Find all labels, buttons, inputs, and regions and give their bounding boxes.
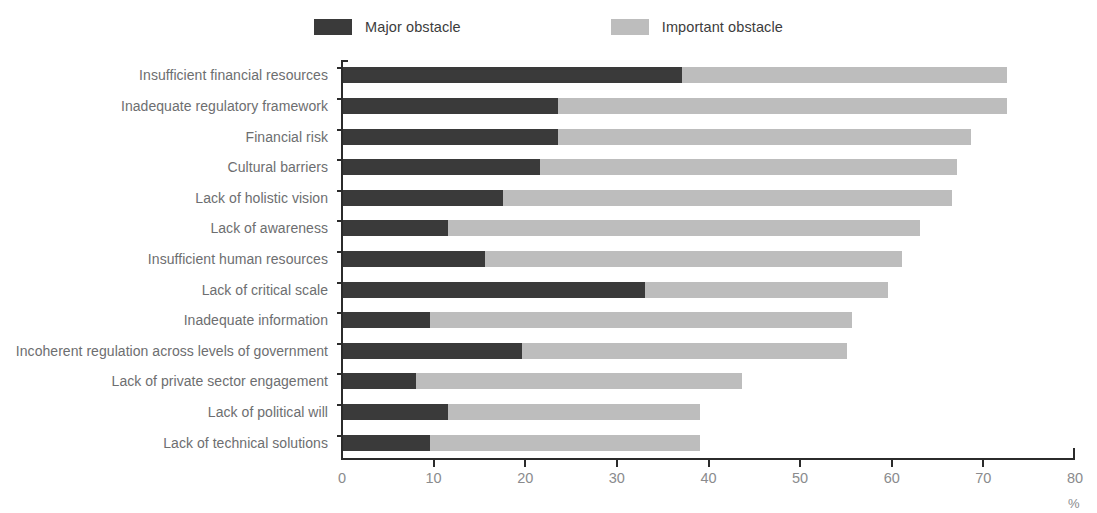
x-axis-tick [891, 458, 893, 467]
category-label-cell: Lack of technical solutions [0, 427, 334, 458]
x-axis-tick [524, 458, 526, 467]
category-label: Insufficient human resources [148, 251, 328, 267]
stacked-bar [343, 373, 742, 389]
category-label: Lack of holistic vision [195, 190, 328, 206]
bar-segment-major-obstacle [343, 220, 448, 236]
bar-segment-important-obstacle [448, 220, 920, 236]
stacked-bar-chart: Insufficient financial resourcesInadequa… [0, 52, 1097, 513]
category-label-cell: Lack of holistic vision [0, 182, 334, 213]
bar-segment-important-obstacle [430, 312, 851, 328]
bar-segment-important-obstacle [416, 373, 741, 389]
chart-row: Lack of critical scale [342, 274, 1075, 305]
bar-segment-important-obstacle [645, 282, 888, 298]
chart-row: Cultural barriers [342, 152, 1075, 183]
x-axis-tick-label: 40 [700, 470, 716, 486]
stacked-bar [343, 404, 700, 420]
chart-legend: Major obstacle Important obstacle [0, 14, 1097, 40]
category-label: Insufficient financial resources [139, 67, 328, 83]
x-axis-tick-label: 50 [792, 470, 808, 486]
stacked-bar [343, 67, 1007, 83]
chart-row: Financial risk [342, 121, 1075, 152]
x-axis-tick-label: 80 [1067, 470, 1083, 486]
x-axis-tick-label: 10 [426, 470, 442, 486]
category-label: Inadequate information [184, 312, 328, 328]
stacked-bar [343, 129, 971, 145]
bar-segment-important-obstacle [503, 190, 952, 206]
category-label-cell: Cultural barriers [0, 152, 334, 183]
stacked-bar [343, 435, 700, 451]
x-axis-tick-label: 70 [975, 470, 991, 486]
chart-row: Inadequate information [342, 305, 1075, 336]
bar-segment-major-obstacle [343, 129, 558, 145]
chart-row: Lack of awareness [342, 213, 1075, 244]
stacked-bar [343, 220, 920, 236]
category-label: Lack of critical scale [202, 282, 328, 298]
category-label-cell: Lack of private sector engagement [0, 366, 334, 397]
stacked-bar [343, 343, 847, 359]
x-axis-tick [982, 458, 984, 467]
x-axis-tick [616, 458, 618, 467]
bar-segment-major-obstacle [343, 251, 485, 267]
x-axis-tick-label: 60 [884, 470, 900, 486]
chart-row: Lack of technical solutions [342, 427, 1075, 458]
bar-segment-major-obstacle [343, 159, 540, 175]
bar-segment-important-obstacle [682, 67, 1007, 83]
x-axis-tick [433, 458, 435, 467]
bar-segment-important-obstacle [485, 251, 902, 267]
category-label: Inadequate regulatory framework [121, 98, 328, 114]
bar-segment-major-obstacle [343, 190, 503, 206]
category-label: Lack of political will [208, 404, 328, 420]
stacked-bar [343, 312, 852, 328]
legend-entry-major: Major obstacle [314, 19, 461, 35]
bar-segment-important-obstacle [522, 343, 847, 359]
category-label-cell: Insufficient human resources [0, 244, 334, 275]
x-axis-tick-label: 30 [609, 470, 625, 486]
legend-swatch-important-obstacle [611, 19, 649, 35]
category-label: Financial risk [246, 129, 328, 145]
bar-segment-important-obstacle [430, 435, 700, 451]
category-label-cell: Inadequate information [0, 305, 334, 336]
x-axis-tick-label: 20 [517, 470, 533, 486]
chart-row: Insufficient human resources [342, 244, 1075, 275]
bar-segment-major-obstacle [343, 67, 682, 83]
category-label-cell: Lack of critical scale [0, 274, 334, 305]
category-label: Lack of awareness [210, 220, 328, 236]
category-label-cell: Incoherent regulation across levels of g… [0, 336, 334, 367]
bar-segment-major-obstacle [343, 373, 416, 389]
bar-segment-important-obstacle [558, 129, 970, 145]
bar-segment-major-obstacle [343, 435, 430, 451]
chart-row: Insufficient financial resources [342, 60, 1075, 91]
legend-label-major-obstacle: Major obstacle [365, 19, 461, 35]
category-label-cell: Inadequate regulatory framework [0, 91, 334, 122]
chart-row: Incoherent regulation across levels of g… [342, 336, 1075, 367]
axis-unit-label: % [1068, 496, 1080, 511]
chart-row: Lack of political will [342, 397, 1075, 428]
chart-row: Lack of holistic vision [342, 182, 1075, 213]
bar-segment-major-obstacle [343, 343, 522, 359]
bar-segment-major-obstacle [343, 98, 558, 114]
category-label: Incoherent regulation across levels of g… [16, 343, 328, 359]
legend-swatch-major-obstacle [314, 19, 352, 35]
x-axis-tick-label: 0 [338, 470, 346, 486]
stacked-bar [343, 98, 1007, 114]
x-axis-tick [708, 458, 710, 467]
bar-segment-important-obstacle [540, 159, 957, 175]
stacked-bar [343, 251, 902, 267]
stacked-bar [343, 159, 957, 175]
plot-area: Insufficient financial resourcesInadequa… [342, 60, 1075, 458]
category-label-cell: Financial risk [0, 121, 334, 152]
stacked-bar [343, 282, 888, 298]
bar-segment-major-obstacle [343, 282, 645, 298]
chart-row: Lack of private sector engagement [342, 366, 1075, 397]
x-axis-tick [799, 458, 801, 467]
category-label-cell: Lack of political will [0, 397, 334, 428]
stacked-bar [343, 190, 952, 206]
category-label: Cultural barriers [228, 159, 328, 175]
legend-entry-important: Important obstacle [611, 19, 783, 35]
bar-segment-important-obstacle [448, 404, 700, 420]
bar-segment-major-obstacle [343, 404, 448, 420]
chart-row: Inadequate regulatory framework [342, 91, 1075, 122]
legend-label-important-obstacle: Important obstacle [662, 19, 783, 35]
category-label-cell: Insufficient financial resources [0, 60, 334, 91]
category-label-cell: Lack of awareness [0, 213, 334, 244]
